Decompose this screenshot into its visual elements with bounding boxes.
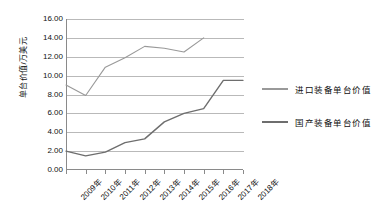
x-axis-tick-label: 2018年 <box>255 176 281 202</box>
x-axis-tick-mark <box>204 170 205 174</box>
y-axis-tick-label: 2.00 <box>27 147 63 155</box>
legend-label-import: 进口装备单台价值 <box>295 83 371 95</box>
x-axis-tick-mark <box>223 170 224 174</box>
x-axis-tick-mark <box>145 170 146 174</box>
legend-swatch-import <box>262 88 288 90</box>
y-axis-tick-label: 8.00 <box>27 91 63 99</box>
x-axis-tick-label: 2013年 <box>156 176 182 202</box>
legend: 进口装备单台价值 国产装备单台价值 <box>262 72 387 138</box>
x-axis-tick-mark <box>125 170 126 174</box>
y-axis-tick-label: 12.00 <box>27 53 63 61</box>
y-axis-tick-label: 0.00 <box>27 166 63 174</box>
series-line-import <box>66 38 204 96</box>
x-axis-tick-mark <box>243 170 244 174</box>
x-axis-tick-mark <box>164 170 165 174</box>
y-axis-tick-label: 10.00 <box>27 72 63 80</box>
line-chart: 单台价值/万美元 0.002.004.006.008.0010.0012.001… <box>0 0 387 215</box>
y-axis-tick-label: 6.00 <box>27 109 63 117</box>
legend-swatch-domestic <box>262 121 288 123</box>
x-axis-tick-label: 2009年 <box>78 176 104 202</box>
x-axis-tick-mark <box>184 170 185 174</box>
series-line-domestic <box>66 80 243 156</box>
x-axis-tick-label: 2016年 <box>215 176 241 202</box>
legend-entry-import[interactable]: 进口装备单台价值 <box>262 72 387 105</box>
y-axis-tick-label: 16.00 <box>27 15 63 23</box>
x-axis-tick-label: 2015年 <box>196 176 222 202</box>
legend-entry-domestic[interactable]: 国产装备单台价值 <box>262 105 387 138</box>
x-axis-tick-mark <box>105 170 106 174</box>
y-axis-title: 单台价值/万美元 <box>17 13 28 123</box>
x-axis-tick-mark <box>66 170 67 174</box>
series-lines <box>66 19 243 170</box>
legend-label-domestic: 国产装备单台价值 <box>295 116 371 128</box>
y-axis-tick-label: 14.00 <box>27 34 63 42</box>
x-axis-tick-mark <box>86 170 87 174</box>
x-axis-tick-label: 2012年 <box>137 176 163 202</box>
y-axis-tick-label: 4.00 <box>27 128 63 136</box>
